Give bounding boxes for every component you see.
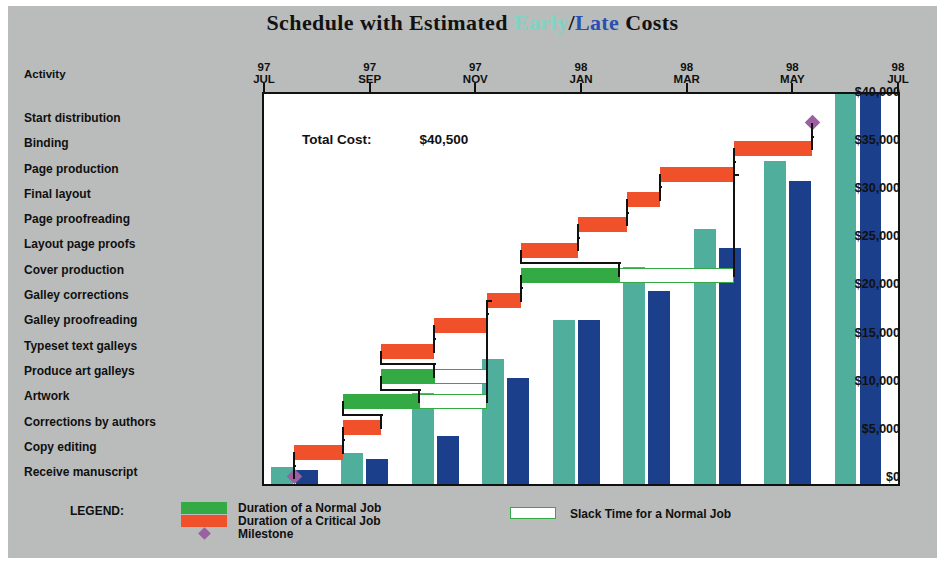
cost-axis-tick-label: $25,000 — [855, 229, 900, 243]
milestone-icon — [198, 527, 211, 540]
legend-text-slack-time: Slack Time for a Normal Job — [570, 507, 731, 521]
tick-month: NOV — [463, 73, 488, 85]
dependency-link — [342, 427, 344, 442]
dependency-link — [342, 401, 344, 416]
legend-swatch-critical-job — [181, 515, 227, 527]
time-axis-tick-label: 97NOV — [463, 61, 488, 85]
gantt-bar-critical — [434, 318, 487, 333]
activity-label: Final layout — [24, 182, 260, 207]
activity-label: Copy editing — [24, 435, 260, 460]
tick-year: 98 — [575, 61, 588, 73]
dependency-link — [293, 465, 295, 480]
activity-label: Corrections by authors — [24, 410, 260, 435]
gantt-bar-critical — [660, 167, 734, 182]
activity-label: Page production — [24, 157, 260, 182]
dependency-link — [293, 452, 295, 467]
cost-axis-tick-label: $35,000 — [855, 133, 900, 147]
cost-bar-early — [764, 161, 786, 484]
activity-label: Start distribution — [24, 106, 260, 131]
dependency-link — [486, 300, 488, 403]
dependency-link — [381, 363, 436, 365]
title-suffix: Costs — [619, 10, 678, 35]
gantt-bar-critical — [487, 293, 521, 308]
tick-year: 98 — [892, 61, 905, 73]
cost-axis-tick-label: $10,000 — [855, 374, 900, 388]
tick-month: JAN — [569, 73, 592, 85]
dependency-link — [618, 262, 620, 277]
time-axis-tick-mark — [263, 83, 265, 92]
dependency-link — [733, 174, 739, 176]
tick-year: 97 — [363, 61, 376, 73]
dependency-link — [381, 389, 421, 391]
cost-bar-late — [366, 459, 388, 484]
gantt-bar-slack — [434, 369, 487, 384]
activity-label: Produce art galleys — [24, 359, 260, 384]
dependency-link — [418, 389, 420, 404]
tick-month: SEP — [358, 73, 381, 85]
dependency-link — [486, 300, 492, 302]
gantt-bar-critical — [381, 344, 434, 359]
legend-text-milestone: Milestone — [238, 527, 293, 541]
cost-axis-tick-label: $15,000 — [855, 326, 900, 340]
dependency-link — [520, 275, 522, 290]
dependency-link — [626, 199, 628, 214]
time-axis-tick-label: 97JUL — [253, 61, 275, 85]
dependency-link — [577, 224, 579, 239]
dependency-link — [733, 148, 735, 163]
cost-axis-tick-label: $5,000 — [862, 422, 900, 436]
time-axis-tick-label: 98MAR — [674, 61, 700, 85]
cost-bar-late — [719, 248, 741, 484]
dependency-link — [433, 338, 435, 353]
chart-panel: Schedule with Estimated Early/Late Costs… — [8, 6, 937, 558]
time-axis-tick-label: 98MAY — [780, 61, 805, 85]
cost-bar-late — [578, 320, 600, 484]
gantt-bar-normal — [381, 369, 434, 384]
activity-label: Receive manuscript — [24, 460, 260, 485]
dependency-link — [733, 174, 735, 277]
dependency-link — [380, 414, 382, 429]
gantt-bar-critical — [343, 420, 381, 435]
time-axis-tick-label: 97SEP — [358, 61, 381, 85]
tick-year: 98 — [680, 61, 693, 73]
cost-bar-early — [553, 320, 575, 484]
dependency-link — [342, 439, 344, 454]
cost-bar-early — [341, 453, 363, 484]
legend: LEGEND: Duration of a Normal Job Duratio… — [8, 498, 937, 554]
cost-axis-tick-label: $30,000 — [855, 181, 900, 195]
total-cost-label: Total Cost: — [302, 132, 372, 147]
cost-bar-late — [507, 378, 529, 484]
gantt-bar-critical — [627, 192, 660, 207]
tick-year: 97 — [469, 61, 482, 73]
tick-year: 97 — [258, 61, 271, 73]
dependency-link — [380, 376, 382, 391]
cost-axis: $0$5,000$10,000$15,000$20,000$25,000$30,… — [808, 92, 918, 486]
tick-month: MAY — [780, 73, 805, 85]
activity-label: Cover production — [24, 258, 260, 283]
time-axis-tick-label: 98JUL — [887, 61, 909, 85]
legend-swatch-normal-job — [181, 502, 227, 514]
gantt-bar-critical — [578, 217, 627, 232]
total-cost-annotation: Total Cost:$40,500 — [302, 132, 468, 147]
dependency-link — [659, 186, 661, 201]
gantt-bar-critical — [294, 445, 343, 460]
tick-month: JUL — [887, 73, 909, 85]
dependency-link — [433, 325, 435, 340]
gantt-bar-normal — [521, 268, 619, 283]
tick-month: MAR — [674, 73, 700, 85]
cost-bar-late — [648, 291, 670, 484]
tick-month: JUL — [253, 73, 275, 85]
activity-label: Galley corrections — [24, 283, 260, 308]
dependency-link — [520, 250, 522, 265]
activity-label: Binding — [24, 131, 260, 156]
activity-label-list: Start distribution Binding Page producti… — [24, 106, 260, 485]
dependency-link — [343, 414, 383, 416]
dependency-link — [521, 262, 621, 264]
cost-bar-late — [437, 436, 459, 484]
page-title: Schedule with Estimated Early/Late Costs — [8, 10, 937, 36]
legend-text-critical-job: Duration of a Critical Job — [238, 514, 381, 528]
cost-axis-tick-label: $0 — [886, 470, 900, 484]
dependency-link — [520, 287, 522, 302]
legend-text-normal-job: Duration of a Normal Job — [238, 501, 381, 515]
title-late-word: Late — [575, 10, 619, 35]
legend-title: LEGEND: — [70, 504, 124, 518]
